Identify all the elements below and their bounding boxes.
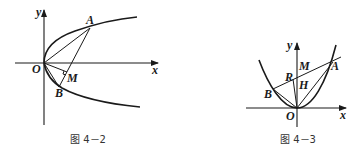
label-x: x (339, 108, 346, 122)
figure-4-3: y x O A B M R H 图 4－3 (246, 38, 346, 145)
label-y: y (34, 5, 42, 19)
caption-fig-4-2: 图 4－2 (70, 134, 106, 145)
figure-4-2: y x O A B M 图 4－2 (15, 5, 158, 145)
segment-OR (293, 79, 297, 108)
label-B: B (263, 87, 272, 101)
parabola-lower-branch (44, 63, 140, 107)
segment-OM (44, 63, 67, 72)
diagram-canvas: y x O A B M 图 4－2 y x O A B M R H 图 4－3 (0, 0, 354, 157)
segment-OB (273, 89, 297, 108)
label-A: A (85, 13, 94, 27)
caption-fig-4-3: 图 4－3 (280, 134, 316, 145)
label-H: H (298, 78, 309, 92)
segment-OB (44, 63, 59, 87)
label-M: M (298, 59, 310, 73)
label-x: x (151, 63, 158, 77)
label-A: A (330, 59, 339, 73)
label-O: O (32, 62, 41, 76)
label-B: B (54, 86, 63, 100)
label-M: M (66, 71, 78, 85)
label-O: O (286, 109, 295, 123)
label-y: y (285, 38, 293, 52)
label-R: R (284, 70, 293, 84)
